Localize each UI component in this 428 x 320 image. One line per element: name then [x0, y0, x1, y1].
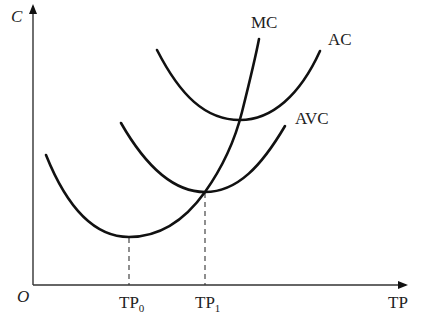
- x-axis-label: TP: [388, 293, 408, 312]
- diagram-svg: C O TP MC AC AVC TP0 TP1: [0, 0, 428, 320]
- origin-label: O: [17, 287, 29, 306]
- y-axis-label: C: [11, 7, 23, 26]
- avc-label: AVC: [295, 109, 329, 128]
- avc-curve: [121, 123, 285, 192]
- mc-label: MC: [251, 13, 277, 32]
- cost-curves-diagram: C O TP MC AC AVC TP0 TP1: [0, 0, 428, 320]
- tp1-label: TP1: [195, 293, 220, 314]
- ac-label: AC: [328, 30, 352, 49]
- tp0-label: TP0: [119, 293, 145, 314]
- mc-curve: [46, 39, 259, 237]
